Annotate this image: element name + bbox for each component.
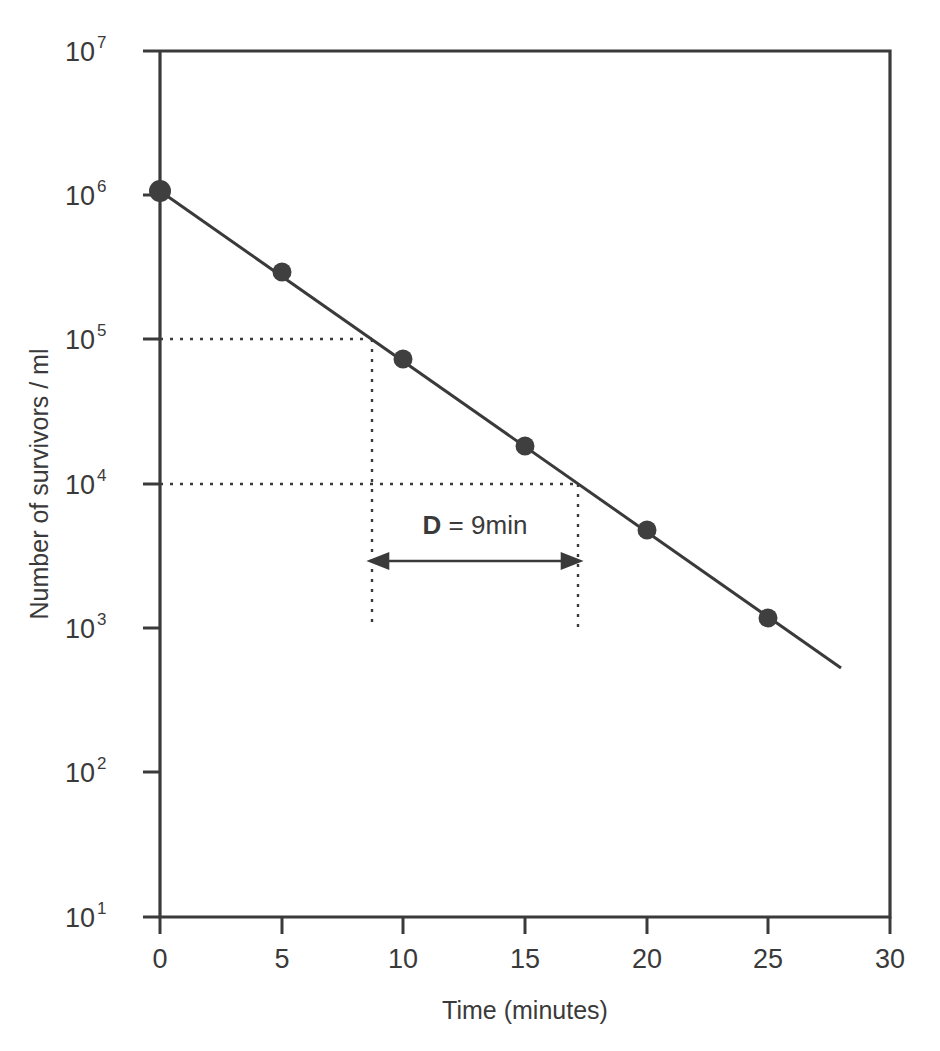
y-tick-exp-2: 5 <box>97 321 106 340</box>
y-tick-exp-0: 7 <box>97 33 106 52</box>
y-tick-exp-4: 3 <box>97 610 106 629</box>
y-tick-label-10e3: 10 3 <box>65 610 107 644</box>
y-tick-exp-1: 6 <box>97 177 106 196</box>
chart-figure: 10 7 10 6 10 5 10 4 10 3 10 2 <box>0 0 940 1051</box>
data-point <box>149 180 171 202</box>
d-equals-value: = 9min <box>441 510 527 540</box>
x-tick-label-6: 30 <box>875 944 905 974</box>
y-tick-base-0: 10 <box>65 37 95 67</box>
x-tick-label-0: 0 <box>152 944 167 974</box>
x-tick-label-3: 15 <box>510 944 540 974</box>
y-axis-title: Number of survivors / ml <box>25 349 53 620</box>
x-tick-label-4: 20 <box>632 944 662 974</box>
d-value-label: D = 9min <box>423 510 528 540</box>
x-tick-label-1: 5 <box>274 944 289 974</box>
y-tick-base-6: 10 <box>65 903 95 933</box>
construction-guides <box>160 339 578 628</box>
data-point <box>273 263 292 282</box>
y-tick-base-2: 10 <box>65 325 95 355</box>
survivor-curve-plot: 10 7 10 6 10 5 10 4 10 3 10 2 <box>0 0 940 1051</box>
y-tick-exp-6: 1 <box>97 899 106 918</box>
y-axis-tick-labels: 10 7 10 6 10 5 10 4 10 3 10 2 <box>65 33 107 933</box>
d-value-arrow <box>370 554 580 568</box>
y-tick-label-10e5: 10 5 <box>65 321 107 355</box>
y-tick-label-10e7: 10 7 <box>65 33 107 67</box>
data-point <box>516 437 535 456</box>
d-symbol: D <box>423 510 442 540</box>
x-axis-tick-labels: 0 5 10 15 20 25 30 <box>152 944 905 974</box>
y-tick-base-1: 10 <box>65 181 95 211</box>
y-tick-base-5: 10 <box>65 758 95 788</box>
x-tick-label-5: 25 <box>753 944 783 974</box>
data-point <box>759 609 778 628</box>
y-tick-base-4: 10 <box>65 614 95 644</box>
y-tick-base-3: 10 <box>65 470 95 500</box>
y-tick-exp-3: 4 <box>97 466 106 485</box>
x-tick-label-2: 10 <box>388 944 418 974</box>
y-tick-label-10e4: 10 4 <box>65 466 107 500</box>
y-tick-label-10e1: 10 1 <box>65 899 107 933</box>
x-axis-ticks <box>160 917 890 934</box>
data-point <box>638 521 657 540</box>
arrowhead-left <box>370 554 388 568</box>
y-tick-label-10e6: 10 6 <box>65 177 107 211</box>
y-tick-exp-5: 2 <box>97 754 106 773</box>
y-tick-label-10e2: 10 2 <box>65 754 107 788</box>
x-axis-title: Time (minutes) <box>442 996 608 1024</box>
plot-frame <box>160 51 890 917</box>
data-point <box>394 350 413 369</box>
fitted-decay-line <box>160 191 841 668</box>
